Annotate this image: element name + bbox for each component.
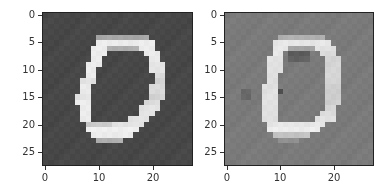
y-tick-label: 5 bbox=[197, 37, 217, 47]
y-tick-label: 0 bbox=[197, 10, 217, 20]
y-tick bbox=[38, 70, 42, 71]
image-axes bbox=[224, 12, 374, 166]
y-tick-label: 10 bbox=[15, 65, 35, 75]
x-tick-label: 20 bbox=[322, 173, 346, 183]
y-tick-label: 20 bbox=[197, 120, 217, 130]
y-tick bbox=[220, 152, 224, 153]
y-tick-label: 25 bbox=[15, 147, 35, 157]
y-tick bbox=[38, 42, 42, 43]
y-tick bbox=[220, 15, 224, 16]
x-tick-label: 10 bbox=[87, 173, 111, 183]
y-tick bbox=[220, 125, 224, 126]
y-tick-label: 10 bbox=[197, 65, 217, 75]
y-tick bbox=[38, 152, 42, 153]
x-tick bbox=[45, 166, 46, 170]
x-tick bbox=[99, 166, 100, 170]
x-tick bbox=[153, 166, 154, 170]
x-tick-label: 10 bbox=[268, 173, 292, 183]
y-tick bbox=[220, 42, 224, 43]
digit-image bbox=[43, 13, 192, 165]
y-tick bbox=[38, 15, 42, 16]
digit-image bbox=[225, 13, 373, 165]
y-tick-label: 0 bbox=[15, 10, 35, 20]
y-tick-label: 20 bbox=[15, 120, 35, 130]
y-tick bbox=[220, 97, 224, 98]
y-tick bbox=[38, 97, 42, 98]
y-tick-label: 15 bbox=[15, 92, 35, 102]
image-axes bbox=[42, 12, 193, 166]
y-tick-label: 5 bbox=[15, 37, 35, 47]
y-tick-label: 25 bbox=[197, 147, 217, 157]
x-tick-label: 0 bbox=[33, 173, 57, 183]
x-tick-label: 20 bbox=[141, 173, 165, 183]
y-tick bbox=[220, 70, 224, 71]
y-tick-label: 15 bbox=[197, 92, 217, 102]
x-tick bbox=[280, 166, 281, 170]
y-tick bbox=[38, 125, 42, 126]
x-tick-label: 0 bbox=[215, 173, 239, 183]
x-tick bbox=[227, 166, 228, 170]
x-tick bbox=[334, 166, 335, 170]
